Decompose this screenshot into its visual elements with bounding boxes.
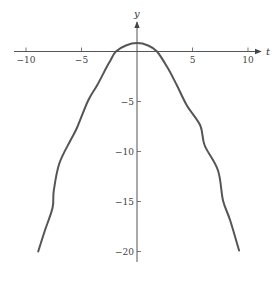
x-tick-label: −10 — [17, 55, 36, 65]
y-tick-label: −15 — [115, 197, 134, 207]
chart: −10−5510 t −5−10−15−20 y — [0, 0, 279, 284]
y-tick-label: −20 — [115, 247, 134, 257]
x-axis-label: t — [266, 46, 271, 57]
x-tick-label: 10 — [242, 55, 254, 65]
y-axis-label: y — [133, 8, 140, 19]
data-curve — [38, 43, 239, 251]
x-tick-label: 5 — [190, 55, 196, 65]
x-tick-label: −5 — [75, 55, 89, 65]
x-ticks: −10−5510 — [17, 48, 254, 65]
x-axis: −10−5510 t — [14, 46, 271, 65]
y-tick-label: −5 — [121, 97, 135, 107]
y-tick-label: −10 — [115, 147, 134, 157]
y-axis: −5−10−15−20 y — [115, 8, 141, 262]
